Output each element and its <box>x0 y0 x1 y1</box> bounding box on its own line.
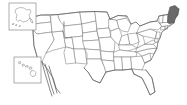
hawaii-inset-box <box>14 57 41 83</box>
state-new-jersey[interactable] <box>156 32 160 39</box>
hawaii-inset[interactable] <box>14 57 41 83</box>
state-arkansas[interactable] <box>101 51 114 61</box>
gulf-coast-outline <box>42 62 60 93</box>
us-map-container <box>0 0 187 105</box>
alaska-inset[interactable] <box>9 3 36 30</box>
hawaii-island-maui[interactable] <box>29 67 32 69</box>
state-nebraska[interactable] <box>83 31 99 41</box>
baja-california-outline <box>42 62 52 96</box>
mexico-inland-outline <box>49 66 57 93</box>
state-mississippi[interactable] <box>114 57 123 70</box>
hawaii-island-molokai[interactable] <box>26 66 29 68</box>
hawaii-island-oahu[interactable] <box>22 64 25 66</box>
state-iowa[interactable] <box>97 28 111 38</box>
state-florida[interactable] <box>132 69 155 95</box>
state-tennessee[interactable] <box>114 50 137 57</box>
state-maine-highlighted[interactable] <box>168 6 180 24</box>
state-alabama[interactable] <box>122 57 132 70</box>
state-new-hampshire[interactable] <box>163 15 168 23</box>
states-layer <box>33 6 179 96</box>
state-kansas[interactable] <box>83 40 100 50</box>
state-new-mexico[interactable] <box>74 49 87 64</box>
us-map-svg <box>0 0 187 105</box>
state-oklahoma[interactable] <box>85 49 101 59</box>
